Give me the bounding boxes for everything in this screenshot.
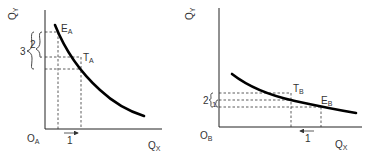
diagram-canvas: QY EA TA 2 3 1 OA QX QY bbox=[0, 0, 374, 164]
panel-a-origin-label: OA bbox=[27, 133, 40, 145]
panel-a-indifference-curve bbox=[55, 25, 144, 116]
panel-a-x-axis-label: QX bbox=[148, 140, 161, 152]
panel-b-x-change-value: 1 bbox=[305, 133, 311, 144]
panel-a: QY EA TA 2 3 1 OA QX bbox=[7, 7, 162, 152]
panel-b-outer-brace-value: 2 bbox=[203, 95, 209, 106]
panel-a-inner-brace bbox=[36, 32, 42, 57]
panel-b-point-e-label: EB bbox=[321, 95, 333, 107]
panel-a-outer-brace bbox=[27, 32, 34, 69]
panel-b: QY TB EB 2 1 1 OB QX bbox=[184, 7, 362, 151]
panel-a-y-axis-label: QY bbox=[7, 7, 19, 20]
panel-b-point-t-label: TB bbox=[293, 83, 304, 95]
panel-b-x-axis-label: QX bbox=[335, 139, 348, 151]
svg-text:QY: QY bbox=[7, 7, 19, 20]
panel-b-origin-label: OB bbox=[200, 130, 213, 142]
panel-a-outer-brace-value: 3 bbox=[20, 46, 26, 57]
panel-a-x-change-value: 1 bbox=[67, 135, 73, 146]
svg-text:QY: QY bbox=[184, 7, 196, 20]
panel-a-point-t-label: TA bbox=[83, 52, 94, 64]
panel-a-point-e-label: EA bbox=[61, 23, 73, 35]
panel-b-y-axis-label: QY bbox=[184, 7, 196, 20]
